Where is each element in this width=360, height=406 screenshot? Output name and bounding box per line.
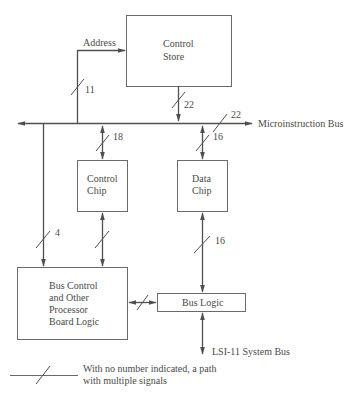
control-chip-to-bus-control-path bbox=[95, 213, 109, 266]
block-diagram: Control Store Address 11 22 22 Microinst… bbox=[0, 0, 360, 406]
control-chip-label-2: Chip bbox=[87, 185, 106, 196]
address-path: Address 11 bbox=[71, 37, 125, 123]
system-bus-path: LSI-11 System Bus bbox=[203, 313, 291, 357]
bus-control-chip-path: 18 bbox=[96, 126, 123, 159]
data-chip-block: Data Chip bbox=[178, 161, 228, 212]
bus-control-label-1: Bus Control bbox=[49, 280, 98, 291]
control-store-block: Control Store bbox=[127, 16, 232, 87]
store-to-bus-path: 22 bbox=[172, 87, 194, 122]
legend-text-2: with multiple signals bbox=[83, 375, 167, 386]
bus-control-block: Bus Control and Other Processor Board Lo… bbox=[18, 268, 128, 340]
microinstruction-bus: 22 Microinstruction Bus bbox=[18, 109, 343, 132]
bus-control-label-4: Board Logic bbox=[49, 316, 100, 327]
microinstruction-bus-width-label: 22 bbox=[231, 109, 241, 120]
bus-logic-label: Bus Logic bbox=[182, 297, 224, 308]
store-to-bus-width-label: 22 bbox=[184, 99, 194, 110]
system-bus-label: LSI-11 System Bus bbox=[212, 346, 290, 357]
data-chip-to-bus-logic-path: 16 bbox=[194, 213, 225, 292]
control-store-label-1: Control bbox=[163, 38, 194, 49]
control-chip-width-label: 18 bbox=[113, 131, 123, 142]
bus-control-width-label: 4 bbox=[55, 227, 60, 238]
legend-text-1: With no number indicated, a path bbox=[83, 363, 216, 374]
bus-control-label-2: and Other bbox=[49, 292, 89, 303]
microinstruction-bus-label: Microinstruction Bus bbox=[258, 118, 343, 129]
bus-logic-width-label: 16 bbox=[215, 235, 225, 246]
address-label: Address bbox=[83, 37, 116, 48]
bus-data-chip-path: 16 bbox=[196, 126, 223, 159]
bus-to-bus-control-path: 4 bbox=[36, 124, 60, 267]
data-chip-width-label: 16 bbox=[213, 131, 223, 142]
data-chip-label-1: Data bbox=[192, 173, 211, 184]
address-width-label: 11 bbox=[85, 84, 95, 95]
control-chip-block: Control Chip bbox=[78, 161, 128, 212]
bus-logic-block: Bus Logic bbox=[158, 294, 246, 312]
bus-control-label-3: Processor bbox=[49, 304, 89, 315]
legend: With no number indicated, a path with mu… bbox=[10, 363, 216, 386]
control-chip-label-1: Control bbox=[87, 173, 118, 184]
bus-control-bus-logic-path bbox=[129, 295, 156, 310]
control-store-label-2: Store bbox=[163, 51, 185, 62]
data-chip-label-2: Chip bbox=[192, 185, 211, 196]
